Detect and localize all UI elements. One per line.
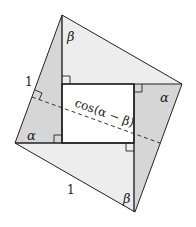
label-side-bottom: 1	[67, 183, 75, 197]
label-beta-bottom: β	[122, 191, 131, 206]
label-alpha-left: α	[27, 128, 36, 143]
label-alpha-right: α	[160, 90, 169, 105]
cos-difference-diagram: β α α β 1 1 cos(α − β)	[0, 0, 196, 227]
label-side-left: 1	[25, 75, 33, 89]
label-beta-top: β	[66, 29, 75, 44]
